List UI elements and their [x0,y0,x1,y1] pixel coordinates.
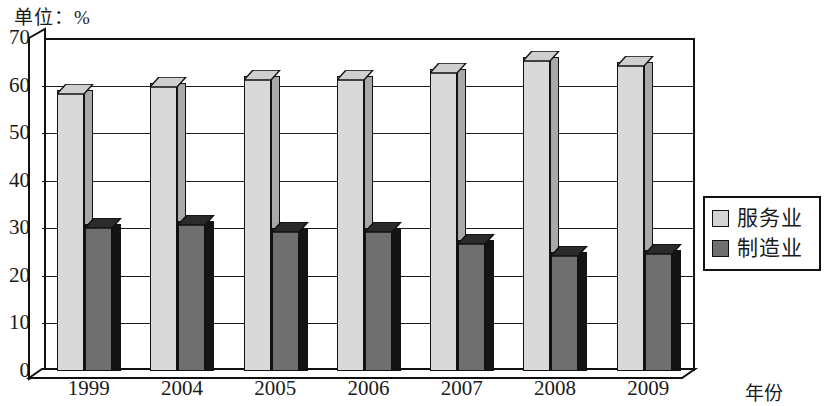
bar-side-face [112,224,121,371]
bar-top-face [57,81,95,90]
bar-face [430,69,457,371]
y-axis-tick-label: 70 [0,27,30,48]
bar-top-face [337,67,375,76]
y-axis-tick-label: 20 [0,265,30,286]
bar-服务业-2006 [337,76,364,371]
bar-side-face [205,221,214,371]
bar-制造业-2004 [178,221,205,371]
bar-top-face [551,243,589,252]
bar-face [244,76,271,371]
bar-side-face [299,228,308,371]
y-axis: 010203040506070 [0,0,30,406]
bar-服务业-1999 [57,90,84,371]
bar-side-face [485,240,494,371]
x-axis-tick-label: 2008 [508,376,601,400]
y-axis-tick-label: 30 [0,217,30,238]
y-axis-tick-label: 40 [0,170,30,191]
bar-face [365,228,392,371]
bar-top-face [244,67,282,76]
bar-制造业-2007 [458,240,485,371]
bar-side-face [392,228,401,371]
bar-side-face [672,250,681,371]
bar-服务业-2004 [150,83,177,371]
bar-制造业-2009 [645,250,672,371]
bar-top-face [617,53,655,62]
legend-label-manufacturing: 制造业 [737,238,803,259]
bar-face [551,252,578,371]
legend-item-services: 服务业 [712,203,813,233]
x-axis-tick-label: 2006 [322,376,415,400]
y-axis-tick-label: 60 [0,75,30,96]
bar-top-face [430,60,468,69]
chart-legend: 服务业 制造业 [703,196,821,271]
bar-face [523,57,550,371]
bar-服务业-2007 [430,69,457,371]
x-axis-tick-label: 2009 [602,376,695,400]
chart-plot-area [42,38,695,371]
x-axis-tick-label: 2007 [415,376,508,400]
bar-top-face [523,48,561,57]
y-axis-tick-label: 50 [0,122,30,143]
bar-side-face [578,252,587,371]
bar-服务业-2009 [617,62,644,371]
legend-label-services: 服务业 [737,208,803,229]
bar-制造业-1999 [85,224,112,371]
legend-swatch-dark-icon [712,240,729,257]
x-axis-tick-label: 2004 [135,376,228,400]
bar-face [150,83,177,371]
bar-服务业-2005 [244,76,271,371]
bar-制造业-2008 [551,252,578,371]
bar-top-face [458,231,496,240]
x-axis-title: 年份 [745,378,783,405]
bar-制造业-2005 [272,228,299,371]
bar-top-face [150,74,188,83]
legend-swatch-light-icon [712,210,729,227]
x-axis-tick-label: 1999 [42,376,135,400]
bar-top-face [85,215,123,224]
bar-face [272,228,299,371]
y-axis-tick-label: 10 [0,312,30,333]
x-axis: 年份 1999200420052006200720082009 [0,376,824,406]
bar-face [458,240,485,371]
bar-face [337,76,364,371]
bar-face [617,62,644,371]
bar-face [85,224,112,371]
bar-top-face [272,219,310,228]
x-axis-tick-label: 2005 [229,376,322,400]
bar-服务业-2008 [523,57,550,371]
bar-top-face [645,241,683,250]
bar-top-face [178,212,216,221]
legend-item-manufacturing: 制造业 [712,233,813,263]
bar-top-face [365,219,403,228]
bar-face [57,90,84,371]
bar-制造业-2006 [365,228,392,371]
bar-face [178,221,205,371]
bar-face [645,250,672,371]
